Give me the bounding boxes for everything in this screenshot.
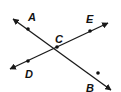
label-e: E — [86, 13, 94, 25]
point-d — [26, 59, 30, 63]
diagram-canvas: AECDB — [0, 0, 121, 92]
label-c: C — [55, 33, 64, 45]
point-a — [26, 27, 30, 31]
line-de — [10, 23, 108, 69]
label-b: B — [86, 82, 94, 92]
point-c — [55, 45, 59, 49]
point-e — [88, 29, 92, 33]
point-b — [96, 71, 100, 75]
intersecting-lines-diagram: AECDB — [0, 0, 121, 92]
label-a: A — [27, 11, 36, 23]
label-d: D — [25, 68, 33, 80]
